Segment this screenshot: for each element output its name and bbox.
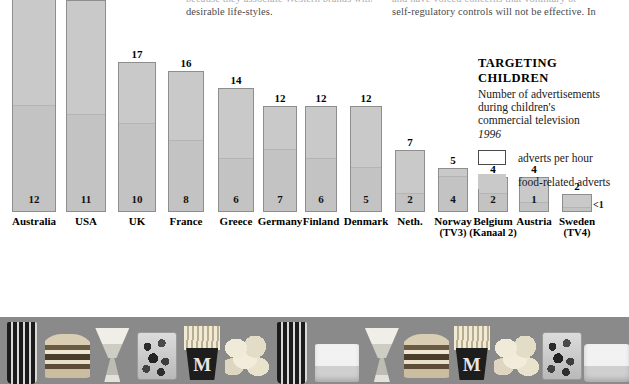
chart-title: TARGETING CHILDREN [478, 56, 628, 86]
bar-total: 10 [118, 62, 156, 212]
drink-cup-icon [277, 322, 307, 384]
bar-total: 6 [305, 106, 337, 212]
fries-icon [182, 326, 222, 380]
bar-food-value: 2 [479, 194, 507, 205]
bar-food-value: 4 [439, 194, 467, 205]
chart-subtitle-line: commercial television [478, 114, 628, 127]
legend-item-food-related: food-related adverts [478, 174, 628, 189]
legend-label: adverts per hour [518, 152, 593, 164]
bar-total-value: 12 [350, 93, 382, 104]
bar-food-value: 12 [13, 194, 55, 205]
legend-swatch-outline-icon [478, 150, 506, 165]
photo-burger [404, 317, 449, 384]
photo-food-box [315, 317, 360, 384]
burger-icon [45, 334, 90, 378]
bar-total-value: 12 [263, 93, 297, 104]
chart-legend-block: TARGETING CHILDREN Number of advertiseme… [478, 56, 628, 189]
bar-food-segment: 5 [351, 167, 381, 211]
straw-notch-left [0, 286, 10, 298]
bar-total: 2 [395, 150, 425, 212]
photo-fries [180, 317, 225, 384]
bar-category-sublabel: (TV4) [548, 227, 606, 239]
bar-total-value: 14 [218, 75, 254, 86]
bar-total: 11 [66, 0, 106, 212]
bar-food-segment: 11 [67, 114, 105, 211]
bar-group-norway: 54Norway(TV3) [438, 168, 468, 212]
chart-year: 1996 [478, 127, 628, 141]
bar-food-segment: 12 [13, 105, 55, 211]
photo-ice-cream-sundae [359, 317, 404, 384]
burger-icon [404, 334, 449, 378]
candy-jar-icon [542, 332, 582, 380]
bar-food-value-side: <1 [593, 199, 604, 210]
bar-food-segment [563, 207, 591, 211]
bar-total-value: 16 [168, 58, 204, 69]
bar-group-finland: 126Finland [305, 106, 337, 212]
drink-cup-icon [7, 322, 37, 384]
photo-food-box [584, 317, 629, 384]
bar-group-usa: 2411USA [66, 0, 106, 212]
bar-food-segment: 6 [219, 158, 253, 211]
legend-item-adverts-per-hour: adverts per hour [478, 150, 628, 165]
bar-food-value: 8 [169, 194, 203, 205]
bar-total-value: 12 [305, 93, 337, 104]
bar-group-australia: 2912Australia [12, 0, 56, 212]
bar-group-france: 168France [168, 71, 204, 212]
chart-subtitle-line: Number of advertisements [478, 88, 628, 101]
bar-total-value: 17 [118, 49, 156, 60]
bar-food-segment: 6 [306, 158, 336, 211]
bar-food-segment: 7 [264, 149, 296, 211]
bar-food-value: 7 [264, 194, 296, 205]
bar-food-segment: 4 [439, 176, 467, 211]
ice-cream-sundae-icon [95, 324, 129, 382]
bar-food-segment: 2 [479, 193, 507, 211]
photo-burger [45, 317, 90, 384]
photo-fries [449, 317, 494, 384]
food-photo-strip [0, 317, 629, 384]
chart-subtitle-line: during children's [478, 101, 628, 114]
candy-jar-icon [137, 332, 177, 380]
bar-food-segment: 8 [169, 140, 203, 211]
bar-food-value: 10 [119, 194, 155, 205]
bar-category-label: Sweden(TV4) [548, 215, 606, 239]
infographic-page: because they associate Western brands wi… [0, 0, 629, 384]
bar-food-value: 2 [396, 194, 424, 205]
bar-food-value: 11 [67, 194, 105, 205]
chicken-nuggets-icon [225, 336, 270, 380]
bar-food-value: 5 [351, 194, 381, 205]
bar-group-greece: 146Greece [218, 88, 254, 212]
bar-group-uk: 1710UK [118, 62, 156, 212]
bar-food-segment: 2 [396, 193, 424, 211]
bar-total: <1 [562, 194, 592, 212]
photo-ice-cream-sundae [90, 317, 135, 384]
food-box-icon [584, 344, 629, 382]
food-box-icon [315, 344, 360, 382]
bar-total: 7 [263, 106, 297, 212]
bar-food-value: 6 [219, 194, 253, 205]
fries-icon [452, 326, 492, 380]
photo-chicken-nuggets [494, 317, 539, 384]
bar-group-sweden: 2<1Sweden(TV4) [562, 194, 592, 212]
legend-swatch-filled-icon [478, 174, 506, 189]
photo-chicken-nuggets [225, 317, 270, 384]
bar-food-value: 6 [306, 194, 336, 205]
photo-candy-jar [539, 317, 584, 384]
bar-group-neth: 72Neth. [395, 150, 425, 212]
ice-cream-sundae-icon [365, 324, 399, 382]
legend-label: food-related adverts [518, 176, 610, 188]
bar-total-value: 5 [438, 155, 468, 166]
bar-total: 6 [218, 88, 254, 212]
bar-food-value: 1 [520, 194, 548, 205]
bar-total: 8 [168, 71, 204, 212]
bar-category-sublabel: (Kanaal 2) [464, 227, 522, 239]
bar-food-segment: 10 [119, 123, 155, 211]
chicken-nuggets-icon [494, 336, 539, 380]
photo-drink-cup [270, 317, 315, 384]
bar-total: 12 [12, 0, 56, 212]
bar-total: 5 [350, 106, 382, 212]
bar-food-segment: 1 [520, 202, 548, 211]
bar-group-denmark: 125Denmark [350, 106, 382, 212]
bar-group-germany: 127Germany [263, 106, 297, 212]
photo-drink-cup [0, 317, 45, 384]
bar-total: 4 [438, 168, 468, 212]
